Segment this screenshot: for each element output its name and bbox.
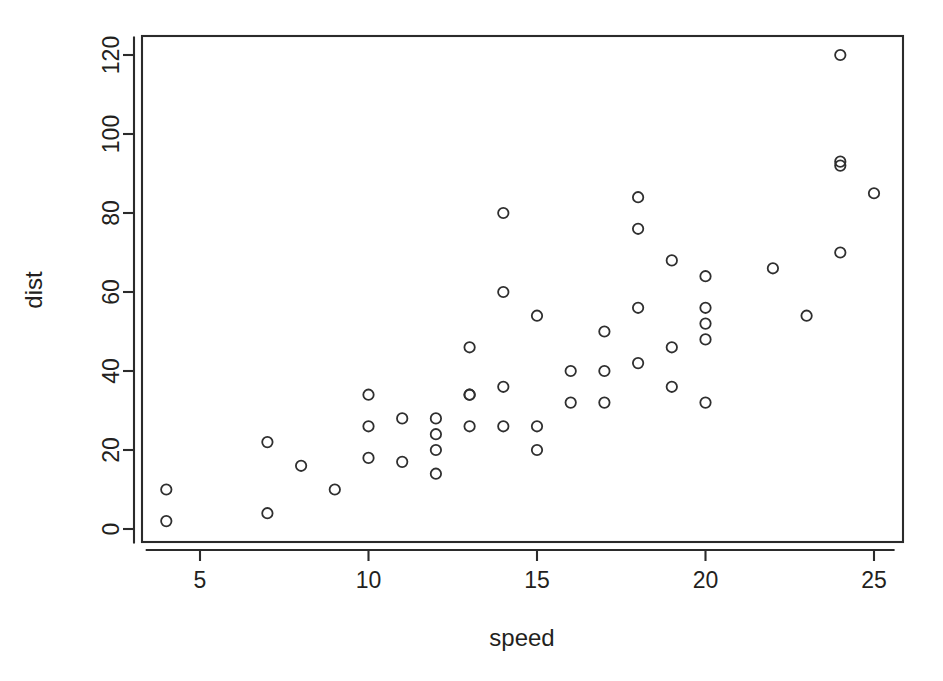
y-tick-label: 40 (98, 358, 124, 384)
y-tick-label: 120 (98, 36, 124, 74)
y-tick-label: 0 (98, 523, 124, 536)
y-axis-title: dist (20, 271, 47, 309)
plot-canvas: 510152025 020406080100120 speed dist (0, 0, 943, 681)
y-tick-label: 20 (98, 437, 124, 463)
x-tick-label: 25 (861, 567, 887, 593)
x-tick-label: 20 (693, 567, 719, 593)
scatter-plot-figure: 510152025 020406080100120 speed dist (0, 0, 943, 681)
y-tick-label: 100 (98, 115, 124, 153)
y-tick-label: 60 (98, 279, 124, 305)
y-tick-label: 80 (98, 200, 124, 226)
x-tick-label: 5 (194, 567, 207, 593)
x-tick-label: 10 (356, 567, 382, 593)
x-tick-label: 15 (524, 567, 550, 593)
x-axis-title: speed (489, 624, 554, 651)
